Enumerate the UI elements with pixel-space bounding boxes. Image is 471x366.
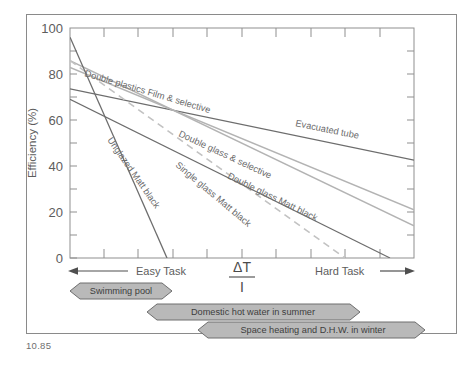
figure-container: 0 20 40 60 80 100 Efficiency (%) (0, 0, 471, 366)
figure-caption: 10.85 (26, 340, 51, 351)
figure-outer-frame (26, 14, 457, 334)
